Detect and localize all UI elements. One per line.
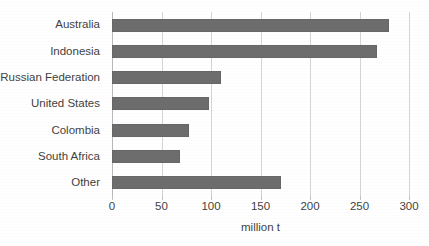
- x-axis-title: million t: [112, 222, 409, 234]
- category-label: United States: [0, 91, 106, 117]
- x-tick-label: 50: [155, 201, 168, 213]
- bar-russian-federation: [112, 71, 221, 84]
- bar-row: [112, 143, 409, 169]
- bar-indonesia: [112, 45, 377, 58]
- x-tick-label: 200: [300, 201, 319, 213]
- bar-row: [112, 170, 409, 196]
- x-tick-label: 100: [201, 201, 220, 213]
- category-label: Indonesia: [0, 38, 106, 64]
- category-axis: Australia Indonesia Russian Federation U…: [0, 12, 106, 196]
- gridline-300: [409, 12, 410, 196]
- bar-row: [112, 12, 409, 38]
- category-label: Russian Federation: [0, 65, 106, 91]
- bar-south-africa: [112, 150, 180, 163]
- bar-chart-figure: Australia Indonesia Russian Federation U…: [0, 0, 429, 246]
- category-label: South Africa: [0, 143, 106, 169]
- bar-colombia: [112, 124, 189, 137]
- bar-row: [112, 38, 409, 64]
- x-tick-label: 250: [350, 201, 369, 213]
- x-tick-label: 150: [251, 201, 270, 213]
- bars-layer: [112, 12, 409, 196]
- x-tick-label: 0: [109, 201, 115, 213]
- bar-row: [112, 65, 409, 91]
- bar-row: [112, 117, 409, 143]
- bar-united-states: [112, 97, 209, 110]
- category-label: Colombia: [0, 117, 106, 143]
- category-label: Other: [0, 170, 106, 196]
- category-label: Australia: [0, 12, 106, 38]
- value-axis: 050100150200250300: [112, 196, 409, 218]
- bar-australia: [112, 19, 389, 32]
- plot-area: [112, 12, 409, 196]
- bar-row: [112, 91, 409, 117]
- bar-other: [112, 176, 281, 189]
- x-tick-label: 300: [399, 201, 418, 213]
